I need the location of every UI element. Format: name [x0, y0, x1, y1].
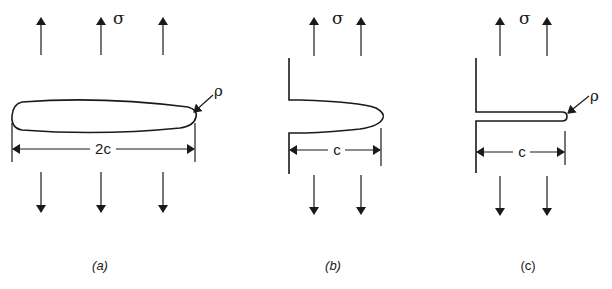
stress-arrows-down-c	[500, 176, 547, 215]
stress-arrows-down-b	[314, 175, 361, 214]
stress-arrows-down-a	[41, 172, 163, 212]
crack-geometry-diagram: σ ρ 2c (a) σ	[0, 0, 612, 289]
panel-a: σ ρ 2c (a)	[12, 8, 223, 273]
elliptical-crack	[12, 100, 196, 133]
panel-b: σ c (b)	[289, 8, 383, 273]
dimension-label-b: c	[333, 141, 341, 158]
stress-label-a: σ	[113, 8, 125, 28]
stress-arrows-up-a	[41, 18, 163, 55]
stress-label-c: σ	[519, 8, 531, 28]
panel-c: σ ρ c (c)	[476, 8, 599, 273]
caption-a: (a)	[92, 258, 108, 273]
dimension-label-c: c	[518, 143, 526, 160]
tip-radius-pointer-icon	[194, 95, 213, 112]
dimension-label-a: 2c	[95, 140, 111, 157]
caption-b: (b)	[325, 258, 341, 273]
tip-radius-pointer-icon	[568, 96, 589, 113]
tip-radius-label-c: ρ	[590, 87, 599, 105]
tip-radius-label-a: ρ	[214, 82, 223, 100]
caption-c: (c)	[520, 258, 535, 273]
stress-label-b: σ	[332, 8, 344, 28]
